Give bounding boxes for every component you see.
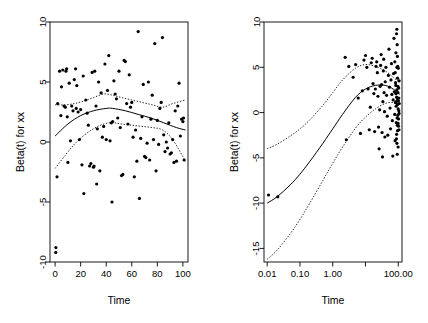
data-point [179, 134, 182, 137]
data-point [181, 120, 184, 123]
x-axis-title: Time [108, 294, 131, 306]
data-point [368, 128, 371, 131]
data-point [161, 36, 164, 39]
data-point [394, 81, 397, 84]
data-point [152, 138, 155, 141]
data-point [82, 192, 85, 195]
data-point [128, 73, 131, 76]
data-point [377, 147, 380, 150]
data-point [110, 200, 113, 203]
data-point [147, 80, 150, 83]
data-point [352, 76, 355, 79]
data-point [354, 63, 357, 66]
data-point [359, 132, 362, 135]
data-point [131, 136, 134, 139]
data-point [117, 70, 120, 73]
y-tick-label: 10 [37, 17, 48, 28]
y-tick-label: -10 [251, 196, 262, 210]
data-point [380, 53, 383, 56]
data-point [177, 82, 180, 85]
data-point [374, 87, 377, 90]
data-point [371, 82, 374, 85]
data-point [389, 127, 392, 130]
data-point [386, 115, 389, 118]
data-point [395, 100, 398, 103]
data-point [391, 119, 394, 122]
data-point [115, 97, 118, 100]
y-tick-label: 10 [251, 17, 262, 28]
data-point [362, 58, 365, 61]
data-point [133, 175, 136, 178]
data-point [153, 42, 156, 45]
data-point [87, 124, 90, 127]
data-point [395, 142, 398, 145]
data-point [129, 106, 132, 109]
data-point [394, 71, 397, 74]
data-point [125, 102, 128, 105]
plot-box [264, 22, 402, 262]
data-point [55, 175, 58, 178]
x-axis-title: Time [322, 294, 345, 306]
data-point [183, 158, 186, 161]
data-point [77, 110, 80, 113]
data-point [387, 74, 390, 77]
data-point [398, 102, 401, 105]
data-point [396, 77, 399, 80]
data-point [361, 89, 364, 92]
data-point [398, 79, 401, 82]
data-point [65, 67, 68, 70]
data-point [71, 109, 74, 112]
x-tick-label: 60 [126, 268, 137, 279]
plot-area [267, 28, 401, 260]
data-point [100, 91, 103, 94]
data-point [54, 246, 57, 249]
data-point [166, 146, 169, 149]
data-point [395, 32, 398, 35]
x-tick-label: 100 [175, 268, 191, 279]
data-point [396, 55, 399, 58]
data-point [154, 169, 157, 172]
data-point [397, 96, 400, 99]
y-tick-label: 0 [37, 139, 48, 144]
data-point [165, 140, 168, 143]
data-point [98, 169, 101, 172]
data-point [151, 94, 154, 97]
data-point [174, 109, 177, 112]
confidence-band-upper [267, 65, 399, 149]
data-point [130, 101, 133, 104]
panel-right: 0.010.101.00100.00-15-10-50510TimeBeta(t… [214, 0, 428, 323]
data-point [380, 131, 383, 134]
data-point [385, 94, 388, 97]
data-point [381, 100, 384, 103]
data-point [93, 70, 96, 73]
data-point [140, 115, 143, 118]
panel-left: 020406080100-10-50510TimeBeta(t) for xx [0, 0, 214, 323]
data-point [94, 104, 97, 107]
data-point [158, 107, 161, 110]
data-point [397, 145, 400, 148]
data-point [176, 104, 179, 107]
x-tick-label: 80 [152, 268, 163, 279]
x-tick-label: 1.00 [323, 268, 342, 279]
y-axis-title: Beta(t) for xx [14, 111, 26, 172]
plot-area [54, 30, 186, 254]
data-point [382, 69, 385, 72]
data-point [392, 37, 395, 40]
y-axis: -15-10-50510 [251, 17, 265, 256]
data-point [105, 138, 108, 141]
data-point [344, 56, 347, 59]
data-point [347, 65, 350, 68]
data-point [370, 61, 373, 64]
data-point [364, 54, 367, 57]
data-point [96, 127, 99, 130]
data-point [396, 85, 399, 88]
plot-svg-left: 020406080100-10-50510TimeBeta(t) for xx [0, 0, 214, 323]
data-point [376, 71, 379, 74]
data-point [107, 54, 110, 57]
data-point [371, 57, 374, 60]
y-tick-label: -5 [37, 198, 48, 206]
data-point [170, 151, 173, 154]
data-point [397, 107, 400, 110]
data-point [374, 65, 377, 68]
data-point [66, 161, 69, 164]
